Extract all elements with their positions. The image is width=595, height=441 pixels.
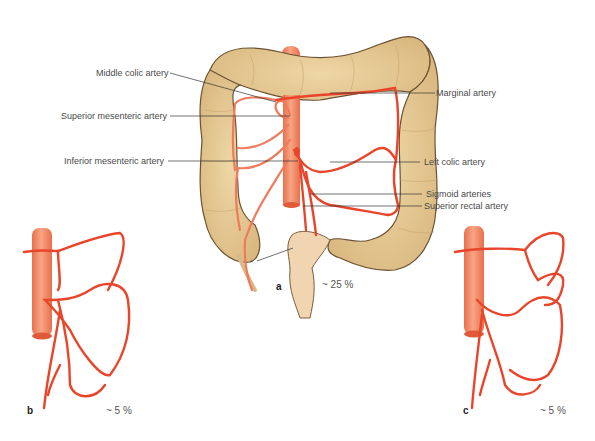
asterisk-marker: *	[250, 257, 253, 268]
label-middle-colic-artery: Middle colic artery	[96, 68, 169, 79]
label-left-colic-artery: Left colic artery	[424, 157, 485, 168]
label-sigmoid-arteries: Sigmoid arteries	[426, 189, 491, 200]
variant-c-illustration	[455, 226, 563, 408]
panel-c-letter: c	[463, 405, 469, 416]
panel-a-letter: a	[276, 281, 282, 292]
anatomy-illustration	[0, 0, 595, 441]
label-superior-rectal-artery: Superior rectal artery	[424, 201, 508, 212]
panel-b-letter: b	[27, 405, 33, 416]
label-inferior-mesenteric-artery: Inferior mesenteric artery	[64, 156, 164, 167]
label-superior-mesenteric-artery: Superior mesenteric artery	[61, 111, 167, 122]
colic-arterial-supply-figure: Middle colic artery Superior mesenteric …	[0, 0, 595, 441]
label-marginal-artery: Marginal artery	[436, 88, 496, 99]
panel-c-percent: ~ 5 %	[540, 405, 566, 416]
panel-b-percent: ~ 5 %	[106, 405, 132, 416]
panel-a-percent: ~ 25 %	[322, 279, 353, 290]
variant-b-illustration	[24, 228, 129, 408]
